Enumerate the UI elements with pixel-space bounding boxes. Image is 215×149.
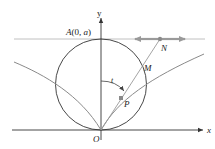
cissoid-curve bbox=[14, 54, 204, 130]
point-M-label: M bbox=[143, 63, 152, 73]
point-P-marker[interactable] bbox=[119, 96, 123, 100]
cissoid-diagram: y x O A(0, a) N M P t bbox=[0, 0, 215, 149]
y-axis-label: y bbox=[97, 8, 102, 18]
point-A-label: A(0, a) bbox=[65, 27, 91, 37]
origin-label: O bbox=[93, 134, 100, 144]
point-N-marker[interactable] bbox=[158, 37, 162, 41]
ray-O-to-N bbox=[101, 39, 160, 130]
angle-t-label: t bbox=[111, 76, 114, 85]
x-axis-label: x bbox=[206, 125, 211, 135]
point-P-label: P bbox=[123, 99, 130, 109]
point-N-label: N bbox=[160, 43, 168, 53]
